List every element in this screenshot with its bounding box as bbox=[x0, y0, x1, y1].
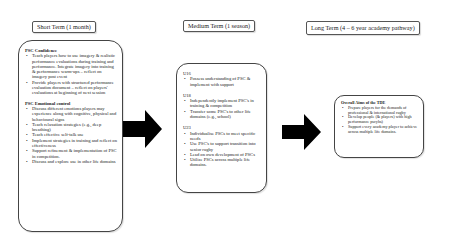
list-u23: Individualise PSCs to meet specific need… bbox=[183, 131, 261, 168]
list-psc-confidence: Teach players how to use imagery & reali… bbox=[25, 53, 117, 95]
list-item: Support every academy player to achieve … bbox=[348, 125, 418, 135]
list-psc-emotional-control: Discuss different emotions players may e… bbox=[25, 106, 117, 164]
list-overall-aims: Prepare players for the demands of profe… bbox=[341, 106, 418, 135]
list-item: Discuss and explore use in other life do… bbox=[32, 159, 117, 164]
header-medium-term: Medium Term (1 season) bbox=[183, 20, 255, 32]
list-item: Individualise PSCs to meet specific need… bbox=[190, 131, 261, 142]
header-long-term: Long Term (4 – 6 year academy pathway) bbox=[306, 21, 420, 35]
arrow-right-icon bbox=[123, 108, 163, 150]
list-item: Transfer some PSC's to other life domain… bbox=[190, 109, 261, 120]
list-u16: Possess understanding of PSC & implement… bbox=[183, 76, 261, 87]
list-u18: Independently implement PSC's in trainin… bbox=[183, 98, 261, 119]
list-item: Provide players with structured performa… bbox=[32, 80, 117, 96]
list-item: Teach relaxation strategies (e.g., deep … bbox=[32, 122, 117, 133]
arrow-right-icon bbox=[282, 113, 322, 151]
list-item: Possess understanding of PSC & implement… bbox=[190, 76, 261, 87]
list-item: Independently implement PSC's in trainin… bbox=[190, 98, 261, 109]
list-item: Implement strategies in training and ref… bbox=[32, 138, 117, 149]
panel-short-term: PSC Confidence Teach players how to use … bbox=[18, 40, 123, 232]
panel-medium-term: U16 Possess understanding of PSC & imple… bbox=[176, 63, 267, 193]
list-item: Utilize PSCs across multiple life domain… bbox=[190, 157, 261, 168]
list-item: Teach players how to use imagery & reali… bbox=[32, 53, 117, 79]
list-item: Use PSC's to support transition into sen… bbox=[190, 141, 261, 152]
list-item: Support refinement & implementation of P… bbox=[32, 148, 117, 159]
panel-long-term: Overall Aims of the TDE Prepare players … bbox=[334, 95, 424, 158]
header-short-term: Short Term (1 month) bbox=[32, 21, 96, 33]
list-item: Discuss different emotions players may e… bbox=[32, 106, 117, 122]
